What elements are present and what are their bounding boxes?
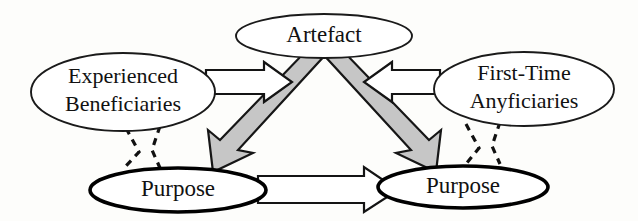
node-purpose-right[interactable]: Purpose (378, 166, 548, 208)
experienced-beneficiaries-label-line1: Experienced (68, 63, 178, 88)
node-purpose-left[interactable]: Purpose (90, 168, 266, 212)
node-experienced-beneficiaries[interactable]: Experienced Beneficiaries (31, 53, 215, 131)
node-artefact[interactable]: Artefact (236, 14, 412, 58)
diagram-svg: Artefact Experienced Beneficiaries First… (0, 0, 638, 221)
purpose-left-label: Purpose (141, 176, 215, 201)
experienced-beneficiaries-label-line2: Beneficiaries (65, 91, 181, 116)
edge-experienced-to-purpose-left-dashed (126, 126, 160, 168)
node-first-time-anyficiaries[interactable]: First-Time Anyficiaries (434, 52, 614, 126)
diagram-canvas: Artefact Experienced Beneficiaries First… (0, 0, 638, 221)
artefact-label: Artefact (286, 22, 362, 47)
purpose-right-label: Purpose (426, 173, 500, 198)
first-time-anyficiaries-label-line2: Anyficiaries (470, 88, 579, 113)
first-time-anyficiaries-label-line1: First-Time (477, 60, 570, 85)
edge-firsttime-to-purpose-right-dashed (466, 122, 500, 164)
